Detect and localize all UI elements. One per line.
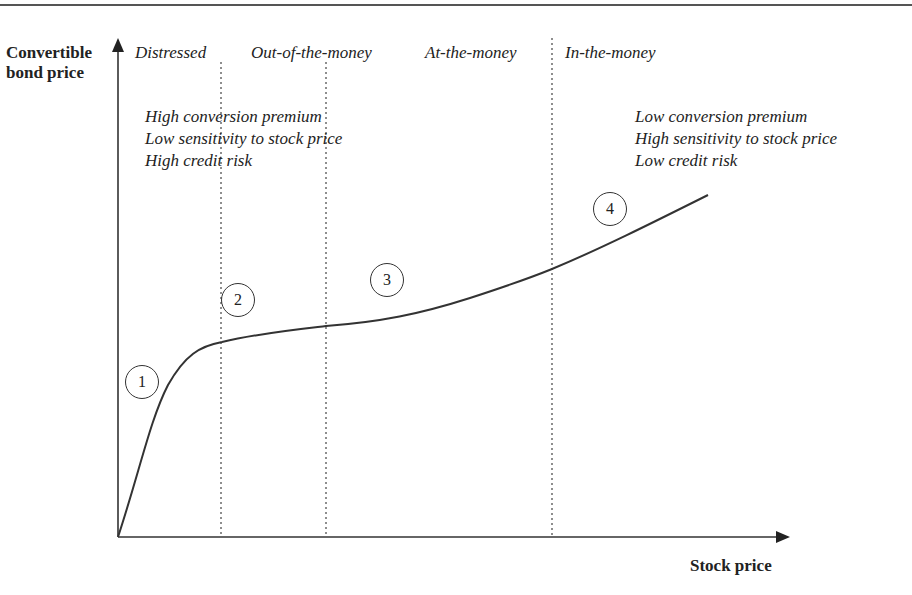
convertible-bond-diagram [0,0,912,595]
y-axis-title-line2: bond price [6,63,92,83]
right-annotation: Low conversion premium High sensitivity … [635,106,837,172]
region-at-the-money-label: At-the-money [425,43,517,63]
region-marker-2: 2 [221,283,255,317]
region-marker-4: 4 [593,192,627,226]
x-axis-arrow-icon [776,531,790,543]
y-axis-title-line1: Convertible [6,43,92,63]
left-annotation: High conversion premium Low sensitivity … [145,106,342,172]
left-annotation-line2: Low sensitivity to stock price [145,128,342,150]
left-annotation-line3: High credit risk [145,150,342,172]
region-marker-3: 3 [370,263,404,297]
region-marker-1: 1 [125,365,159,399]
y-axis-title: Convertible bond price [6,43,92,83]
right-annotation-line1: Low conversion premium [635,106,837,128]
y-axis-arrow-icon [112,38,124,52]
region-distressed-label: Distressed [135,43,206,63]
bond-price-curve [118,195,708,537]
right-annotation-line3: Low credit risk [635,150,837,172]
x-axis-title: Stock price [690,556,772,576]
right-annotation-line2: High sensitivity to stock price [635,128,837,150]
region-in-the-money-label: In-the-money [565,43,656,63]
region-out-of-the-money-label: Out-of-the-money [251,43,372,63]
left-annotation-line1: High conversion premium [145,106,342,128]
